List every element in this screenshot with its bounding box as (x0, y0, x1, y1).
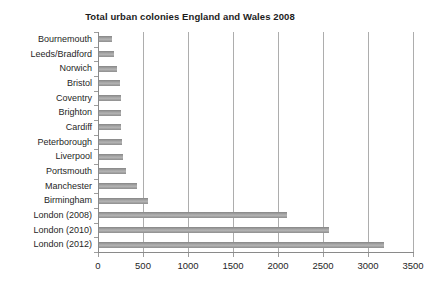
x-tick-500 (143, 253, 144, 257)
y-tick-4 (94, 91, 98, 92)
bar-brighton (99, 110, 121, 116)
category-label-london-2010: London (2010) (0, 225, 92, 236)
x-tick-label-3500: 3500 (391, 260, 435, 271)
gridline-1500 (233, 32, 234, 252)
y-tick-8 (94, 149, 98, 150)
category-label-liverpool: Liverpool (0, 151, 92, 162)
category-label-norwich: Norwich (0, 63, 92, 74)
bar-chart: Total urban colonies England and Wales 2… (0, 0, 441, 295)
bar-liverpool (99, 154, 123, 160)
y-tick-11 (94, 193, 98, 194)
category-label-london-2012: London (2012) (0, 239, 92, 250)
category-label-london-2008: London (2008) (0, 210, 92, 221)
bar-london-2012 (99, 242, 384, 248)
gridline-2500 (323, 32, 324, 252)
bar-bournemouth (99, 36, 112, 42)
y-tick-3 (94, 76, 98, 77)
gridline-3000 (368, 32, 369, 252)
category-label-cardiff: Cardiff (0, 122, 92, 133)
y-tick-1 (94, 47, 98, 48)
gridline-2000 (278, 32, 279, 252)
x-axis-line (98, 252, 414, 253)
bar-bristol (99, 80, 120, 86)
y-tick-13 (94, 223, 98, 224)
x-tick-3500 (413, 253, 414, 257)
y-tick-10 (94, 179, 98, 180)
y-tick-14 (94, 237, 98, 238)
category-label-coventry: Coventry (0, 93, 92, 104)
x-tick-1500 (233, 253, 234, 257)
x-tick-label-0: 0 (76, 260, 120, 271)
category-label-manchester: Manchester (0, 181, 92, 192)
bar-london-2008 (99, 212, 287, 218)
x-tick-1000 (188, 253, 189, 257)
y-tick-9 (94, 164, 98, 165)
y-tick-7 (94, 135, 98, 136)
x-tick-label-2500: 2500 (301, 260, 345, 271)
plot-area (98, 32, 413, 252)
gridline-500 (143, 32, 144, 252)
x-tick-label-1500: 1500 (211, 260, 255, 271)
x-tick-label-3000: 3000 (346, 260, 390, 271)
gridline-1000 (188, 32, 189, 252)
x-tick-3000 (368, 253, 369, 257)
gridline-3500 (413, 32, 414, 252)
category-label-leeds-bradford: Leeds/Bradford (0, 49, 92, 60)
category-label-peterborough: Peterborough (0, 137, 92, 148)
y-tick-6 (94, 120, 98, 121)
bar-london-2010 (99, 227, 329, 233)
bar-norwich (99, 66, 117, 72)
bar-birmingham (99, 198, 148, 204)
category-label-birmingham: Birmingham (0, 195, 92, 206)
category-label-bristol: Bristol (0, 78, 92, 89)
bar-coventry (99, 95, 121, 101)
x-tick-2500 (323, 253, 324, 257)
bar-cardiff (99, 124, 121, 130)
bar-manchester (99, 183, 137, 189)
bar-portsmouth (99, 168, 126, 174)
x-tick-label-1000: 1000 (166, 260, 210, 271)
bar-peterborough (99, 139, 122, 145)
x-tick-label-2000: 2000 (256, 260, 300, 271)
chart-title: Total urban colonies England and Wales 2… (0, 11, 380, 22)
x-tick-label-500: 500 (121, 260, 165, 271)
bar-leeds-bradford (99, 51, 114, 57)
y-tick-0 (94, 32, 98, 33)
category-label-bournemouth: Bournemouth (0, 34, 92, 45)
y-tick-2 (94, 61, 98, 62)
category-label-brighton: Brighton (0, 107, 92, 118)
y-tick-12 (94, 208, 98, 209)
x-tick-0 (98, 253, 99, 257)
x-tick-2000 (278, 253, 279, 257)
category-label-portsmouth: Portsmouth (0, 166, 92, 177)
y-tick-5 (94, 105, 98, 106)
